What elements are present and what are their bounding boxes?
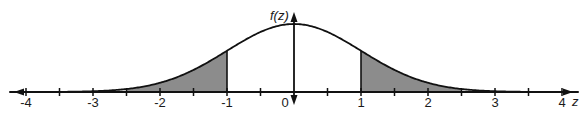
tick-label: 2	[424, 95, 431, 110]
right-tail-shade	[361, 51, 462, 92]
tick-label: -3	[87, 95, 99, 110]
tick-label: 1	[357, 95, 364, 110]
normal-distribution-diagram: -4-3-2-101234 f(z) z	[0, 0, 587, 121]
tick-label: 3	[491, 95, 498, 110]
tick-label: 4	[558, 95, 565, 110]
tick-label: -1	[221, 95, 233, 110]
x-axis-label: z	[571, 94, 579, 109]
tick-label: -2	[154, 95, 166, 110]
left-tail-shade	[127, 51, 228, 92]
y-axis-down-arrow-icon	[291, 95, 298, 105]
y-axis-up-arrow-icon	[291, 12, 298, 22]
y-axis-label: f(z)	[270, 8, 289, 23]
tick-label: 0	[281, 95, 288, 110]
tick-label: -4	[20, 95, 32, 110]
